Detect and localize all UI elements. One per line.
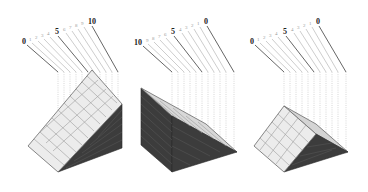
p1-label-4: 4 — [47, 31, 50, 36]
p1-wedge — [28, 70, 122, 172]
p3-label-2b: 2 — [303, 23, 306, 28]
p2-leaders — [143, 26, 234, 72]
p3-label-4b: 4 — [291, 27, 294, 32]
p2-label-2: 2 — [191, 23, 194, 28]
p3-label-0a: 0 — [250, 37, 254, 46]
p1-label-5: 5 — [55, 27, 59, 36]
p1-label-3: 3 — [41, 33, 44, 38]
p2-label-9: 9 — [146, 38, 149, 43]
p3-label-0b: 0 — [316, 17, 320, 26]
panel-1: 0 1 2 3 4 5 6 7 8 9 10 — [22, 17, 122, 172]
p2-wedge — [141, 88, 237, 172]
p1-label-6: 6 — [63, 27, 66, 32]
panel-3: 0 1 2 3 4 5 4 3 2 1 0 — [250, 17, 348, 172]
p1-label-8: 8 — [75, 23, 78, 28]
p2-label-4: 4 — [179, 27, 182, 32]
p1-label-7: 7 — [69, 25, 72, 30]
p2-label-0: 0 — [204, 17, 208, 26]
figure-stage: 0 1 2 3 4 5 6 7 8 9 10 — [0, 0, 368, 192]
p2-label-10: 10 — [134, 38, 142, 47]
p1-label-1: 1 — [29, 37, 32, 42]
p2-label-7: 7 — [158, 34, 161, 39]
p1-label-2: 2 — [35, 35, 38, 40]
p2-label-5: 5 — [171, 27, 175, 36]
p3-label-3b: 3 — [297, 25, 300, 30]
p1-label-10: 10 — [88, 17, 96, 26]
diagram-canvas: 0 1 2 3 4 5 6 7 8 9 10 — [0, 0, 368, 192]
p2-label-8: 8 — [152, 36, 155, 41]
panel-2: 10 9 8 7 6 5 4 3 2 1 0 — [134, 17, 237, 172]
p3-label-1b: 1 — [309, 21, 312, 26]
p3-label-5: 5 — [283, 27, 287, 36]
p3-label-2a: 2 — [263, 35, 266, 40]
p1-label-9: 9 — [81, 21, 84, 26]
p1-label-0: 0 — [22, 37, 26, 46]
p3-label-1a: 1 — [257, 37, 260, 42]
p3-label-4a: 4 — [275, 31, 278, 36]
p2-label-3: 3 — [185, 25, 188, 30]
p2-label-1: 1 — [197, 21, 200, 26]
p3-label-3a: 3 — [269, 33, 272, 38]
p3-prism — [254, 106, 348, 172]
p2-label-6: 6 — [164, 32, 167, 37]
